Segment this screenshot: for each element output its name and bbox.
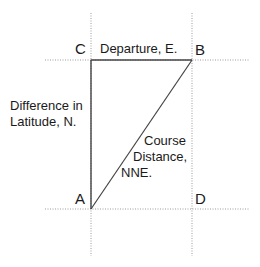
point-d-label: D bbox=[195, 190, 206, 207]
course-distance-label-line2: Distance, bbox=[133, 149, 187, 165]
point-a-label: A bbox=[75, 190, 85, 207]
point-c-label: C bbox=[75, 40, 86, 57]
difference-latitude-label-line2: Latitude, N. bbox=[10, 114, 77, 130]
point-b-label: B bbox=[195, 41, 205, 58]
departure-label: Departure, E. bbox=[100, 41, 177, 57]
difference-latitude-label-line1: Difference in bbox=[10, 98, 83, 114]
course-distance-label-line3: NNE. bbox=[121, 165, 152, 181]
course-distance-label-line1: Course bbox=[144, 133, 186, 149]
